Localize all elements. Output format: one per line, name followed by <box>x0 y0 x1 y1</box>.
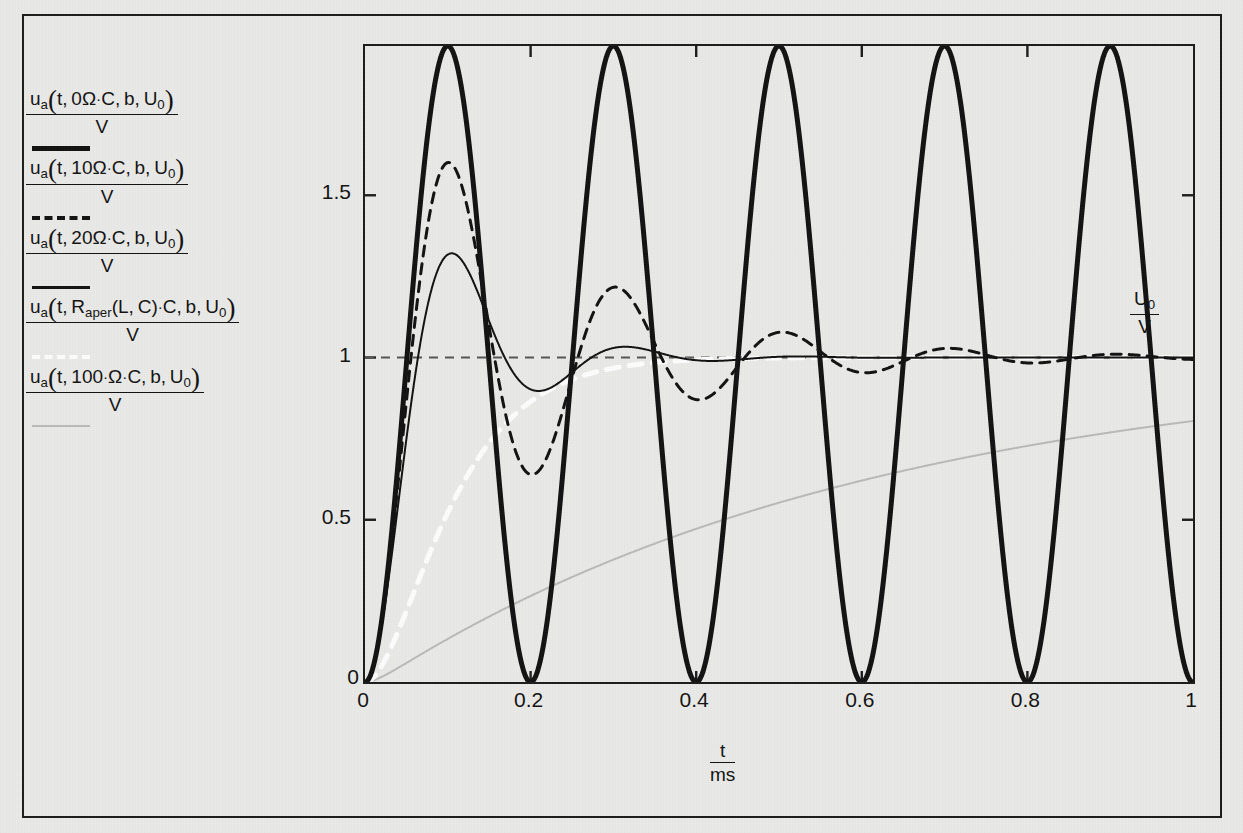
curve-100-ohm <box>365 421 1193 682</box>
legend-label-20-ohm: ua(t, 20Ω·C, b, U0) V <box>26 227 188 276</box>
legend-label-raper: ua(t, Raper(L, C)·C, b, U0) V <box>26 296 239 345</box>
legend-entry-20-ohm: ua(t, 20Ω·C, b, U0) V <box>26 227 326 276</box>
legend-sample-10-ohm <box>32 212 326 224</box>
legend-denominator-20-ohm: V <box>26 254 188 276</box>
y-tick-label-1: 1 <box>291 343 351 367</box>
curve-20-ohm <box>365 163 1193 683</box>
legend-denominator-raper: V <box>26 323 239 345</box>
curve-raper <box>365 358 1193 682</box>
legend-entry-raper: ua(t, Raper(L, C)·C, b, U0) V <box>26 296 326 345</box>
line-sample-solid-thick-icon <box>32 146 90 151</box>
legend-label-10-ohm: ua(t, 10Ω·C, b, U0) V <box>26 157 188 206</box>
legend-entry-100-ohm: ua(t, 100·Ω·C, b, U0) V <box>26 366 326 415</box>
legend-denominator-100-ohm: V <box>26 393 204 415</box>
x-tick-label-0.6: 0.6 <box>830 688 890 712</box>
legend-entry-0-ohm: ua(t, 0Ω·C, b, U0) V <box>26 88 326 137</box>
u0-label-denominator: V <box>1130 315 1159 337</box>
x-axis-title-numerator: t <box>710 740 735 763</box>
plot-curves-svg <box>365 46 1193 682</box>
x-tick-label-0.4: 0.4 <box>664 688 724 712</box>
y-tick-label-1.5: 1.5 <box>291 180 351 204</box>
legend-denominator-0-ohm: V <box>26 115 178 137</box>
legend-label-100-ohm: ua(t, 100·Ω·C, b, U0) V <box>26 366 204 415</box>
x-tick-label-0: 0 <box>333 688 393 712</box>
curve-0-ohm <box>365 46 1193 682</box>
x-axis-title: t ms <box>710 740 735 786</box>
legend-sample-0-ohm <box>32 142 326 154</box>
legend-sample-gray-tail <box>32 420 326 432</box>
y-tick-label-0: 0 <box>299 665 359 689</box>
plot-area <box>363 44 1195 684</box>
u0-reference-label: U0 V <box>1130 288 1159 338</box>
x-tick-label-0.8: 0.8 <box>995 688 1055 712</box>
legend-sample-raper <box>32 281 326 293</box>
legend-denominator-10-ohm: V <box>26 185 188 207</box>
legend-numerator-0-ohm: ua(t, 0Ω·C, b, U0) <box>26 88 178 115</box>
y-tick-label-0.5: 0.5 <box>291 505 351 529</box>
u0-label-numerator: U0 <box>1130 288 1159 315</box>
legend-numerator-raper: ua(t, Raper(L, C)·C, b, U0) <box>26 296 239 323</box>
x-tick-label-0.2: 0.2 <box>499 688 559 712</box>
legend-numerator-100-ohm: ua(t, 100·Ω·C, b, U0) <box>26 366 204 393</box>
legend: ua(t, 0Ω·C, b, U0) V ua(t, 10Ω·C, b, U0)… <box>26 88 326 435</box>
legend-numerator-10-ohm: ua(t, 10Ω·C, b, U0) <box>26 157 188 184</box>
line-sample-solid-thin-icon <box>32 286 90 289</box>
x-tick-label-1: 1 <box>1161 688 1221 712</box>
legend-label-0-ohm: ua(t, 0Ω·C, b, U0) V <box>26 88 178 137</box>
legend-numerator-20-ohm: ua(t, 20Ω·C, b, U0) <box>26 227 188 254</box>
line-sample-dashed-black-icon <box>32 216 90 220</box>
curve-10-ohm <box>365 253 1193 682</box>
line-sample-solid-gray-icon <box>32 425 90 427</box>
line-sample-dashed-white-icon <box>32 355 90 359</box>
legend-sample-100-ohm <box>32 351 326 363</box>
legend-entry-10-ohm: ua(t, 10Ω·C, b, U0) V <box>26 157 326 206</box>
curves <box>365 46 1193 682</box>
x-axis-title-denominator: ms <box>710 763 735 785</box>
